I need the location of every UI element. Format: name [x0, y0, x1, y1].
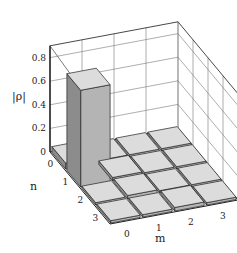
m-tick-label: 0 [124, 229, 130, 239]
z-tick-label: 0 [40, 147, 46, 157]
z-tick-label: 0.6 [32, 76, 47, 86]
n-tick-label: 1 [63, 177, 69, 187]
bar-side-face [67, 74, 81, 187]
z-tick-label: 0.2 [32, 123, 46, 133]
n-tick-label: 3 [93, 213, 99, 223]
n-axis-label: n [30, 180, 37, 193]
z-tick-label: 0.4 [32, 100, 47, 110]
bar3d-chart: 00.20.40.60.801230123 |ρ| n m [0, 0, 237, 253]
m-axis-label: m [155, 232, 166, 245]
n-tick-label: 0 [48, 159, 54, 169]
m-tick-label: 3 [220, 211, 226, 221]
z-axis-label: |ρ| [12, 90, 26, 104]
m-tick-label: 2 [188, 217, 194, 227]
z-tick-label: 0.8 [32, 53, 47, 63]
n-tick-label: 2 [78, 195, 84, 205]
